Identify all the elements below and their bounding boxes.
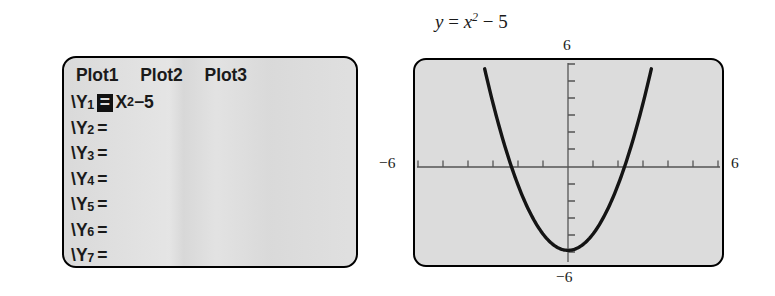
- axis-label-y-max: 6: [563, 36, 571, 54]
- function-equals-y6[interactable]: =: [97, 220, 107, 241]
- function-index-y6: 6: [87, 225, 94, 239]
- function-index-y7: 7: [87, 251, 94, 265]
- function-name-y7: Y: [76, 245, 87, 266]
- graph-plot-area: [415, 60, 722, 265]
- function-name-y4: Y: [76, 169, 87, 190]
- function-name-y1: Y: [76, 92, 87, 113]
- plot-tab-3[interactable]: Plot3: [205, 65, 247, 86]
- function-name-y3: Y: [76, 143, 87, 164]
- plot-tabs-row: Plot1 Plot2 Plot3: [76, 65, 247, 86]
- function-index-y1: 1: [87, 98, 94, 112]
- axis-label-x-min: −6: [379, 154, 396, 172]
- function-equals-y1[interactable]: =: [97, 94, 112, 112]
- function-equals-y3[interactable]: =: [97, 143, 107, 164]
- graph-title-exponent: 2: [472, 10, 478, 24]
- function-name-y2: Y: [76, 118, 87, 139]
- y-axis: [568, 63, 575, 262]
- plot-tab-1[interactable]: Plot1: [76, 65, 118, 86]
- graph-title-x: x: [464, 11, 472, 32]
- function-row-y5[interactable]: \ Y 5 =: [71, 192, 352, 218]
- y-editor-screen: Plot1 Plot2 Plot3 \ Y 1 = X2−5 \ Y 2 = \…: [62, 56, 358, 268]
- plot-tab-2[interactable]: Plot2: [140, 65, 182, 86]
- function-expression-tail-y1[interactable]: −5: [134, 92, 154, 113]
- function-index-y2: 2: [87, 123, 94, 137]
- function-row-y3[interactable]: \ Y 3 =: [71, 141, 352, 167]
- function-list: \ Y 1 = X2−5 \ Y 2 = \ Y 3 = \ Y 4 =: [71, 90, 352, 268]
- function-equals-y4[interactable]: =: [97, 169, 107, 190]
- graph-equation-title: y = x2 − 5: [435, 10, 508, 33]
- function-row-y1[interactable]: \ Y 1 = X2−5: [71, 90, 352, 116]
- axis-label-x-max: 6: [731, 154, 739, 172]
- function-index-y3: 3: [87, 149, 94, 163]
- function-row-y4[interactable]: \ Y 4 =: [71, 167, 352, 193]
- function-name-y6: Y: [76, 220, 87, 241]
- function-row-y6[interactable]: \ Y 6 =: [71, 218, 352, 244]
- function-row-y2[interactable]: \ Y 2 =: [71, 116, 352, 142]
- graph-title-tail: − 5: [483, 11, 508, 32]
- function-expression-y1[interactable]: X: [116, 92, 127, 113]
- function-row-y7[interactable]: \ Y 7 =: [71, 243, 352, 268]
- graph-screen: [413, 58, 724, 267]
- function-equals-y7[interactable]: =: [97, 245, 107, 266]
- function-name-y5: Y: [76, 194, 87, 215]
- function-equals-y2[interactable]: =: [97, 118, 107, 139]
- function-equals-y5[interactable]: =: [97, 194, 107, 215]
- function-index-y4: 4: [87, 174, 94, 188]
- axis-label-y-min: −6: [556, 268, 573, 286]
- graph-title-equals: =: [448, 11, 459, 32]
- function-index-y5: 5: [87, 200, 94, 214]
